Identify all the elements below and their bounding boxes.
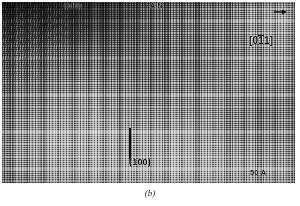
film-grain-texture	[2, 2, 295, 183]
scale-bar-label: 50 A	[250, 168, 266, 177]
material-label-right: AlN	[150, 2, 163, 9]
zone-axis-suffix: 1]	[264, 35, 273, 46]
zone-axis-prefix: [0	[249, 35, 258, 46]
plane-label: (100)	[129, 157, 151, 167]
zone-axis-label: [011]	[249, 35, 273, 46]
figure-caption: (b)	[0, 188, 300, 198]
arrow-right-icon	[274, 7, 288, 17]
tem-micrograph-image: CdTe AlN [011] (100) 50 A	[2, 2, 295, 183]
figure-container: CdTe AlN [011] (100) 50 A (b)	[0, 0, 300, 206]
material-label-left: CdTe	[64, 2, 82, 9]
